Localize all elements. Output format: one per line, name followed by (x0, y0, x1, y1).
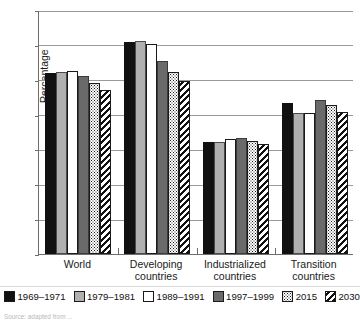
legend-item[interactable]: 2015 (282, 291, 317, 302)
legend-swatch-gray (74, 291, 85, 302)
x-axis-label-line: Industrialized (196, 259, 275, 271)
bar-group-world (45, 10, 111, 254)
y-tick-10 (35, 220, 39, 221)
bar-group-transition-countries (282, 10, 348, 254)
y-tick-70 (35, 11, 39, 12)
x-axis-label-industrialized-countries: Industrializedcountries (196, 259, 275, 282)
bar (124, 42, 135, 254)
bar-group-industrialized-countries (203, 10, 269, 254)
bar (146, 44, 157, 254)
legend-swatch-hatched (325, 291, 336, 302)
legend-item[interactable]: 2030 (325, 291, 360, 302)
x-axis-group-separator (197, 248, 198, 254)
bar (203, 142, 214, 254)
legend-label: 1989–1991 (157, 291, 205, 302)
x-axis-label-line: Developing (117, 259, 196, 271)
x-axis-label-developing-countries: Developingcountries (117, 259, 196, 282)
bar (56, 72, 67, 254)
legend-swatch-black (4, 291, 15, 302)
y-tick-50 (35, 81, 39, 82)
bar (247, 141, 258, 254)
chart-legend: 1969–19711979–19811989–19911997–19992015… (4, 291, 356, 302)
legend-label: 2030 (338, 291, 359, 302)
bar (282, 103, 293, 254)
bar (225, 139, 236, 254)
legend-label: 1979–1981 (87, 291, 135, 302)
y-tick-20 (35, 185, 39, 186)
bar (258, 144, 269, 254)
bar (304, 113, 315, 254)
x-axis-group-separator (118, 248, 119, 254)
bar-chart: Percentage 010203040506070 WorldDevelopi… (0, 0, 360, 324)
bar (236, 138, 247, 254)
bar (337, 112, 348, 254)
x-axis-label-transition-countries: Transitioncountries (274, 259, 353, 282)
legend-item[interactable]: 1979–1981 (74, 291, 136, 302)
y-tick-60 (35, 46, 39, 47)
bar (45, 73, 56, 254)
x-axis-label-line: countries (117, 271, 196, 283)
legend-label: 1997–1999 (226, 291, 274, 302)
x-axis-label-line: countries (274, 271, 353, 283)
legend-item[interactable]: 1997–1999 (213, 291, 275, 302)
y-tick-30 (35, 150, 39, 151)
y-tick-0 (35, 255, 39, 256)
bar (293, 113, 304, 254)
bar (179, 81, 190, 254)
source-note: Source: adapted from ... (4, 313, 356, 320)
bar (100, 90, 111, 254)
bar (315, 100, 326, 254)
x-axis-label-world: World (38, 259, 117, 271)
legend-divider (0, 286, 360, 287)
bar (214, 142, 225, 254)
x-axis-group-separator (275, 248, 276, 254)
legend-swatch-darkgray (213, 291, 224, 302)
legend-item[interactable]: 1989–1991 (143, 291, 205, 302)
x-axis-label-line: World (38, 259, 117, 271)
legend-swatch-white (143, 291, 154, 302)
bar (326, 105, 337, 254)
y-tick-40 (35, 116, 39, 117)
plot-area: Percentage 010203040506070 (38, 11, 353, 255)
legend-label: 2015 (296, 291, 317, 302)
bar (89, 83, 100, 254)
legend-item[interactable]: 1969–1971 (4, 291, 66, 302)
legend-label: 1969–1971 (18, 291, 66, 302)
bar (168, 72, 179, 254)
x-axis-label-line: Transition (274, 259, 353, 271)
bar (135, 41, 146, 254)
bar (157, 61, 168, 254)
legend-swatch-dotted (282, 291, 293, 302)
bar (78, 76, 89, 254)
bar (67, 71, 78, 254)
x-axis-label-line: countries (196, 271, 275, 283)
bar-group-developing-countries (124, 10, 190, 254)
